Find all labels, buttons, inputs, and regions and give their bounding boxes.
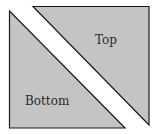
split-square-diagram: Top Bottom — [0, 0, 156, 134]
top-label: Top — [95, 33, 117, 47]
bottom-label: Bottom — [25, 94, 70, 108]
